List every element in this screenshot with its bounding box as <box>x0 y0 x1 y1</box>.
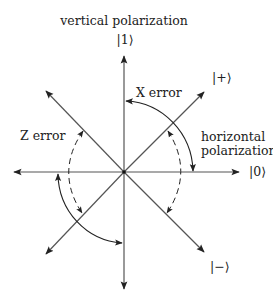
origin-dot <box>122 170 126 174</box>
ket-zero-label: |0⟩ <box>249 164 266 179</box>
diagonal-minus <box>124 172 204 252</box>
horizontal-label-line1: horizontal <box>201 129 265 144</box>
ket-minus-label: |−⟩ <box>210 259 230 274</box>
x-error-label: X error <box>136 85 182 100</box>
vertical-polarization-label: vertical polarization <box>59 13 187 28</box>
ket-one-label: |1⟩ <box>116 32 133 47</box>
axes <box>14 56 239 289</box>
horizontal-label-line2: polarization <box>201 143 273 158</box>
z-error-label: Z error <box>20 128 66 143</box>
polarization-error-diagram: vertical polarization |1⟩ |+⟩ X error Z … <box>0 0 273 299</box>
ket-plus-label: |+⟩ <box>212 70 232 85</box>
